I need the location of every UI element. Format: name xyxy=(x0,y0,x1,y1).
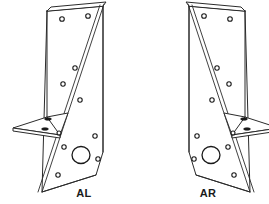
al-part-label: AL xyxy=(76,187,91,199)
al-hole-top-right xyxy=(86,14,91,19)
al-hole-left-of-big xyxy=(62,145,66,149)
al-shelf-slot-1 xyxy=(45,118,52,121)
al-hole-diag-2 xyxy=(61,82,65,86)
ar-hole-top-right xyxy=(228,17,233,22)
ar-hole-diag-1 xyxy=(215,66,219,70)
al-hole-diag-3 xyxy=(78,98,82,102)
ar-hole-diag-4 xyxy=(231,131,235,135)
ar-hole-mid-left xyxy=(195,134,199,138)
ar-hole-diag-2 xyxy=(227,82,231,86)
al-hole-mid-right xyxy=(93,134,97,138)
ar-shelf-slot-2 xyxy=(244,128,251,131)
ar-hole-bottom-right xyxy=(232,173,236,177)
al-hole-diag-4 xyxy=(57,131,61,135)
al-hole-top-left xyxy=(60,17,65,22)
ar-part-label: AR xyxy=(200,187,217,199)
ar-large-access-hole xyxy=(202,147,220,164)
al-hole-diag-1 xyxy=(73,66,77,70)
ar-hole-top-left xyxy=(202,14,207,19)
ar-shelf-slot-1 xyxy=(241,118,248,121)
ar-hole-right-of-big xyxy=(226,145,230,149)
al-shelf-slot-2 xyxy=(42,128,49,131)
bracket-ar: AR xyxy=(186,2,269,199)
ar-hole-left-of-big xyxy=(192,157,196,161)
technical-drawing-canvas: AL xyxy=(0,0,269,204)
al-hole-bottom-left xyxy=(56,173,60,177)
al-large-access-hole xyxy=(72,147,90,164)
bracket-al: AL xyxy=(13,2,106,199)
al-hole-right-of-big xyxy=(96,157,100,161)
ar-hole-diag-3 xyxy=(210,98,214,102)
